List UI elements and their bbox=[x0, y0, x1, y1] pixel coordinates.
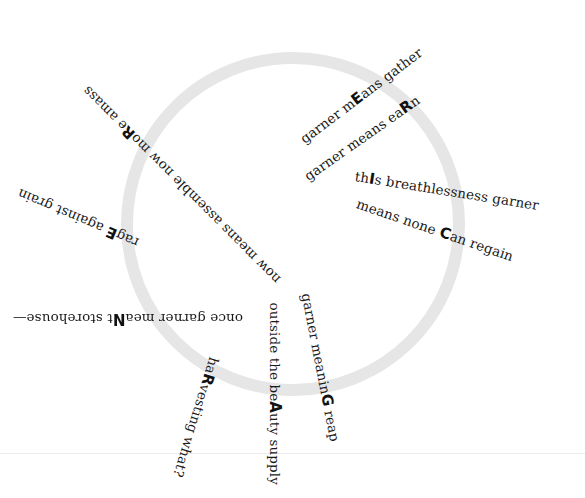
poem-line-8: haRvesting what? bbox=[170, 355, 221, 479]
line-text-before: once garner mea bbox=[125, 311, 243, 327]
horizontal-rule bbox=[0, 453, 585, 454]
poem-line-7: once garner meaNt storehouse— bbox=[13, 311, 243, 326]
line-text-after: t storehouse— bbox=[13, 311, 113, 327]
poem-canvas: garner mEans gather garner means eaRn th… bbox=[0, 0, 585, 498]
poem-line-9: outside the beAuty supply bbox=[267, 303, 282, 485]
line-text-after: reap bbox=[321, 405, 344, 443]
acrostic-letter: A bbox=[266, 401, 284, 413]
acrostic-letter: N bbox=[113, 310, 126, 328]
line-text-after: e amass bbox=[79, 83, 130, 134]
line-text-after: against grain bbox=[15, 186, 110, 238]
line-text-after: uty supply bbox=[267, 413, 283, 485]
line-text-after: vesting what? bbox=[170, 383, 213, 480]
line-text-before: outside the be bbox=[267, 303, 283, 402]
